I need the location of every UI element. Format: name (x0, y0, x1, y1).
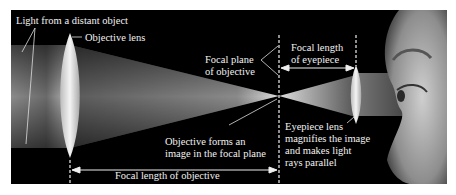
label-focal-length-eyepiece-2: of eyepiece (291, 54, 339, 65)
label-light-source: Light from a distant object (16, 15, 128, 26)
label-focal-length-eyepiece-1: Focal length (291, 42, 343, 53)
label-focal-plane-2: of objective (205, 66, 255, 77)
label-focal-plane-1: Focal plane (205, 54, 254, 65)
label-objective-forms-2: image in the focal plane (165, 148, 266, 159)
label-eyepiece-3: and makes light (285, 145, 352, 156)
diagram-panel: Light from a distant object Objective le… (11, 10, 447, 184)
label-eyepiece-2: magnifies the image (285, 133, 370, 144)
focal-length-eyepiece-arrow (281, 65, 354, 71)
eye-iris (397, 90, 405, 102)
diverging-rays (279, 75, 356, 117)
label-eyepiece-4: rays parallel (285, 157, 337, 168)
label-objective-forms-1: Objective forms an (165, 136, 245, 147)
label-objective-lens: Objective lens (85, 32, 145, 43)
label-eyepiece-1: Eyepiece lens (285, 121, 343, 132)
label-focal-length-objective: Focal length of objective (115, 170, 220, 181)
